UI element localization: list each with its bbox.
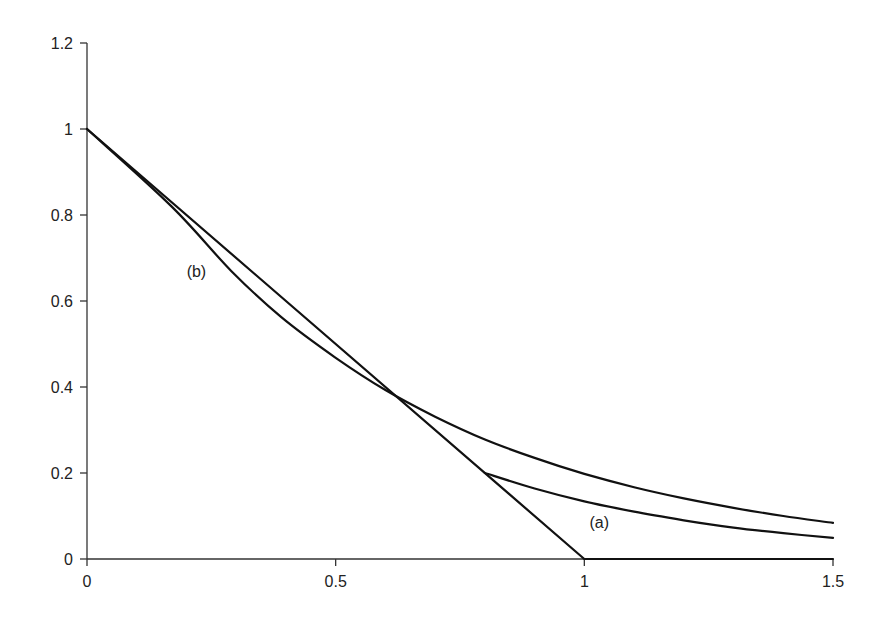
x-tick-label: 0 [83, 573, 92, 590]
x-tick-label: 1 [580, 573, 589, 590]
x-tick-label: 1.5 [822, 573, 844, 590]
y-tick-label: 0.2 [51, 465, 73, 482]
y-tick-label: 0.8 [51, 207, 73, 224]
series-group [87, 129, 833, 559]
curve-b-line [87, 129, 833, 523]
curve-label: (a) [589, 514, 609, 531]
x-tick-label: 0.5 [325, 573, 347, 590]
piecewise-linear-line [87, 129, 833, 559]
curve-a-line [485, 473, 833, 538]
y-tick-label: 0.6 [51, 293, 73, 310]
y-tick-label: 0.4 [51, 379, 73, 396]
y-tick-label: 1 [64, 121, 73, 138]
curve-label: (b) [187, 263, 207, 280]
y-tick-label: 1.2 [51, 35, 73, 52]
y-tick-label: 0 [64, 551, 73, 568]
chart: 00.20.40.60.811.200.511.5 (a)(b) [0, 0, 880, 626]
